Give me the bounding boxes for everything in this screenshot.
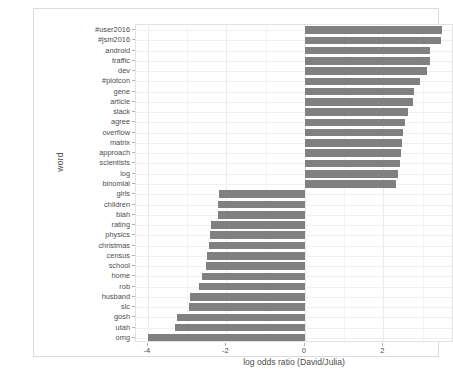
y-axis-tick-label: scientists bbox=[72, 158, 130, 167]
y-axis-tick-mark bbox=[132, 337, 135, 338]
y-axis-tick-mark bbox=[132, 70, 135, 71]
y-axis-title: word bbox=[55, 132, 65, 192]
chart-bar bbox=[305, 160, 400, 168]
y-axis-tick-label: approach bbox=[72, 148, 130, 157]
y-axis-tick-mark bbox=[132, 327, 135, 328]
y-axis-tick-mark bbox=[132, 39, 135, 40]
y-axis-tick-label: home bbox=[72, 271, 130, 280]
chart-bar bbox=[305, 57, 430, 65]
y-axis-tick-mark bbox=[132, 111, 135, 112]
chart-bar bbox=[175, 324, 305, 332]
y-axis-tick-label: dev bbox=[72, 66, 130, 75]
y-axis-tick-mark bbox=[132, 183, 135, 184]
y-axis-tick-label: utah bbox=[72, 322, 130, 331]
y-axis-tick-mark bbox=[132, 91, 135, 92]
y-axis-tick-mark bbox=[132, 173, 135, 174]
y-axis-tick-mark bbox=[132, 234, 135, 235]
chart-bar bbox=[210, 231, 305, 239]
chart-bar bbox=[206, 262, 305, 270]
y-axis-tick-label: census bbox=[72, 250, 130, 259]
chart-bar bbox=[177, 314, 305, 322]
y-axis-tick-mark bbox=[132, 50, 135, 51]
y-axis-tick-mark bbox=[132, 152, 135, 153]
y-axis-tick-mark bbox=[132, 132, 135, 133]
gridline-horizontal-major bbox=[136, 174, 452, 175]
y-axis-tick-mark bbox=[132, 255, 135, 256]
chart-bar bbox=[209, 242, 305, 250]
y-axis-tick-label: physics bbox=[72, 230, 130, 239]
chart-bar bbox=[305, 149, 401, 157]
y-axis-tick-label: overflow bbox=[72, 127, 130, 136]
chart-bar bbox=[207, 252, 304, 260]
x-axis-tick-label: -2 bbox=[210, 346, 240, 355]
y-axis-tick-mark bbox=[132, 101, 135, 102]
y-axis-tick-label: school bbox=[72, 261, 130, 270]
y-axis-tick-label: agree bbox=[72, 117, 130, 126]
chart-bar bbox=[218, 201, 304, 209]
gridline-horizontal-major bbox=[136, 184, 452, 185]
y-axis-tick-label: rating bbox=[72, 220, 130, 229]
y-axis-tick-mark bbox=[132, 204, 135, 205]
chart-bar bbox=[305, 180, 396, 188]
chart-bar bbox=[305, 129, 403, 137]
chart-bar bbox=[305, 98, 413, 106]
chart-bar bbox=[305, 119, 405, 127]
x-axis-tick-label: 0 bbox=[289, 346, 319, 355]
y-axis-tick-mark bbox=[132, 121, 135, 122]
gridline-horizontal-major bbox=[136, 143, 452, 144]
y-axis-tick-label: #plotcon bbox=[72, 76, 130, 85]
y-axis-tick-mark bbox=[132, 29, 135, 30]
chart-bar bbox=[219, 190, 305, 198]
chart-bar bbox=[189, 303, 305, 311]
y-axis-tick-mark bbox=[132, 60, 135, 61]
chart-bar bbox=[305, 37, 441, 45]
gridline-horizontal-major bbox=[136, 163, 452, 164]
y-axis-tick-mark bbox=[132, 193, 135, 194]
chart-bar bbox=[211, 221, 305, 229]
y-axis-tick-mark bbox=[132, 162, 135, 163]
y-axis-tick-mark bbox=[132, 224, 135, 225]
gridline-horizontal-major bbox=[136, 153, 452, 154]
chart-bar bbox=[202, 273, 305, 281]
y-axis-tick-label: android bbox=[72, 45, 130, 54]
x-axis-tick-label: -4 bbox=[132, 346, 162, 355]
y-axis-tick-mark bbox=[132, 286, 135, 287]
gridline-vertical-minor bbox=[187, 25, 188, 341]
x-axis-tick-label: 2 bbox=[367, 346, 397, 355]
y-axis-tick-labels: #user2016#jsm2016androidtrafficdev#plotc… bbox=[72, 24, 130, 342]
y-axis-tick-label: blah bbox=[72, 209, 130, 218]
y-axis-tick-label: #user2016 bbox=[72, 25, 130, 34]
y-axis-tick-label: article bbox=[72, 96, 130, 105]
y-axis-tick-mark bbox=[132, 214, 135, 215]
y-axis-tick-label: #jsm2016 bbox=[72, 35, 130, 44]
gridline-vertical-major bbox=[148, 25, 149, 341]
y-axis-tick-mark bbox=[132, 142, 135, 143]
chart-bar bbox=[190, 293, 305, 301]
y-axis-tick-label: children bbox=[72, 199, 130, 208]
y-axis-tick-mark bbox=[132, 306, 135, 307]
chart-bar bbox=[305, 26, 442, 34]
chart-bar bbox=[148, 334, 305, 342]
y-axis-tick-label: omg bbox=[72, 332, 130, 341]
chart-bar bbox=[305, 78, 420, 86]
y-axis-tick-label: rob bbox=[72, 281, 130, 290]
y-axis-tick-label: husband bbox=[72, 291, 130, 300]
y-axis-tick-label: christmas bbox=[72, 240, 130, 249]
y-axis-tick-label: binomial bbox=[72, 179, 130, 188]
y-axis-tick-mark bbox=[132, 296, 135, 297]
chart-bar bbox=[199, 283, 305, 291]
chart-bar bbox=[305, 139, 402, 147]
chart-bar bbox=[218, 211, 305, 219]
y-axis-tick-label: girls bbox=[72, 189, 130, 198]
y-axis-tick-mark bbox=[132, 275, 135, 276]
y-axis-tick-label: gosh bbox=[72, 312, 130, 321]
y-axis-tick-label: traffic bbox=[72, 55, 130, 64]
y-axis-tick-label: gene bbox=[72, 86, 130, 95]
y-axis-tick-label: slc bbox=[72, 302, 130, 311]
y-axis-tick-mark bbox=[132, 245, 135, 246]
y-axis-tick-label: matrix bbox=[72, 137, 130, 146]
chart-bar bbox=[305, 170, 398, 178]
chart-bar bbox=[305, 47, 431, 55]
chart-bar bbox=[305, 67, 427, 75]
